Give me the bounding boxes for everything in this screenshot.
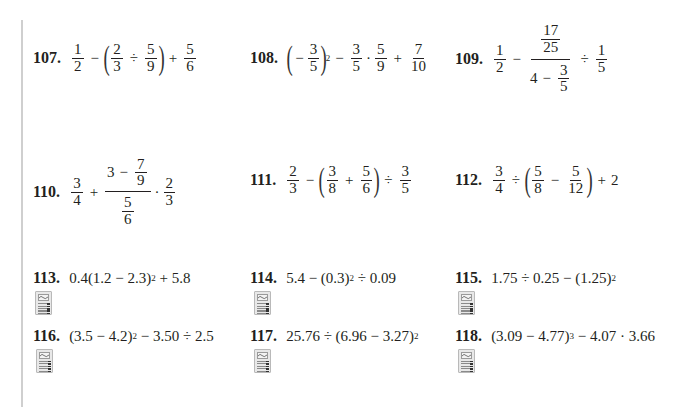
problem-number: 117. (250, 327, 277, 345)
operator: ÷ (580, 51, 588, 68)
fraction: 15 (596, 43, 608, 76)
fraction: 35 (400, 164, 412, 197)
problem-110: 110. 34 + 3 − 79 56 · 23 (33, 147, 177, 237)
fraction: 59 (145, 42, 157, 75)
expression-text: 25.76 ÷ (6.96 − 3.27) (286, 328, 414, 345)
expression-text: 0.4(1.2 − 2.3) (69, 270, 151, 287)
problem-number: 118. (455, 327, 482, 345)
problem-number: 109. (455, 50, 483, 68)
fraction: 56 (361, 164, 373, 197)
expression-text: 5.4 − (0.3) (286, 270, 349, 287)
problem-107: 107. 12 − ( 23 ÷ 59 ) + 56 (33, 38, 198, 78)
fraction: 56 (184, 42, 196, 75)
right-paren: ) (321, 41, 327, 75)
graphing-calculator-icon[interactable] (254, 349, 271, 373)
problem-number: 113. (33, 269, 60, 287)
problem-114: 114. 5.4 − (0.3)2 ÷ 0.09 (250, 268, 396, 288)
fraction: 23 (164, 176, 176, 209)
whole-number: 4 (530, 71, 538, 87)
problem-111: 111. 23 − ( 38 + 56 ) ÷ 35 (250, 160, 413, 200)
operator: · (155, 184, 160, 201)
fraction: 710 (409, 42, 428, 75)
problem-number: 108. (250, 49, 278, 67)
fraction: 56 (122, 195, 134, 228)
expression-text: ÷ 0.09 (354, 270, 396, 287)
fraction: 38 (327, 164, 339, 197)
right-paren: ) (587, 163, 593, 197)
graphing-calculator-icon[interactable] (35, 291, 52, 315)
operator: − (335, 50, 343, 67)
problem-113: 113. 0.4(1.2 − 2.3)2 + 5.8 (33, 268, 191, 288)
operator: − (513, 51, 521, 68)
exponent: 2 (414, 331, 419, 341)
expression-text: + 5.8 (156, 270, 191, 287)
operator: + (169, 50, 177, 67)
problem-115: 115. 1.75 ÷ 0.25 − (1.25)2 (455, 268, 616, 288)
expression-text: 1.75 ÷ 0.25 − (1.25) (491, 270, 611, 287)
whole-number: 3 (107, 165, 115, 181)
margin-rule (21, 20, 23, 407)
problem-118: 118. (3.09 − 4.77)3 − 4.07 · 3.66 (455, 326, 655, 346)
operator: + (394, 50, 402, 67)
left-paren: ( (524, 163, 530, 197)
expression-text: (3.5 − 4.2) (69, 328, 132, 345)
left-paren: ( (287, 41, 293, 75)
fraction: 512 (566, 164, 585, 197)
problem-number: 107. (33, 49, 61, 67)
operator: ÷ (384, 172, 392, 189)
fraction: 12 (494, 43, 506, 76)
fraction: 58 (532, 164, 544, 197)
operator: − (306, 172, 314, 189)
fraction: 23 (111, 42, 123, 75)
graphing-calculator-icon[interactable] (458, 349, 475, 373)
operator: − (120, 165, 128, 181)
fraction: 35 (308, 42, 320, 75)
exponent: 2 (612, 273, 617, 283)
expression-text: − 4.07 · 3.66 (574, 328, 655, 345)
fraction: 23 (287, 164, 299, 197)
problem-109: 109. 12 − 1725 4 − 35 ÷ 15 (455, 15, 609, 103)
problem-number: 115. (455, 269, 482, 287)
whole-number: 2 (611, 172, 619, 189)
fraction: 59 (375, 42, 387, 75)
operator: ÷ (130, 50, 138, 67)
operator: · (366, 50, 371, 67)
operator: − (542, 71, 550, 87)
left-paren: ( (104, 41, 110, 75)
negative-sign: − (295, 50, 303, 67)
graphing-calculator-icon[interactable] (254, 291, 271, 315)
problem-number: 112. (455, 171, 482, 189)
fraction: 35 (558, 63, 570, 96)
expression-text: − 3.50 ÷ 2.5 (137, 328, 214, 345)
problem-number: 110. (33, 183, 60, 201)
expression-text: (3.09 − 4.77) (491, 328, 569, 345)
complex-fraction: 3 − 79 56 (105, 157, 150, 228)
left-paren: ( (319, 163, 325, 197)
operator: − (91, 50, 99, 67)
graphing-calculator-icon[interactable] (458, 291, 475, 315)
operator: + (345, 172, 353, 189)
operator: + (90, 184, 98, 201)
problem-number: 111. (250, 171, 276, 189)
problem-number: 116. (33, 327, 60, 345)
complex-fraction: 1725 4 − 35 (528, 23, 573, 95)
problem-116: 116. (3.5 − 4.2)2 − 3.50 ÷ 2.5 (33, 326, 214, 346)
problem-112: 112. 34 ÷ ( 58 − 512 ) + 2 (455, 160, 618, 200)
fraction: 35 (351, 42, 363, 75)
right-paren: ) (158, 41, 164, 75)
problem-number: 114. (250, 269, 277, 287)
fraction: 34 (71, 176, 83, 209)
right-paren: ) (374, 163, 380, 197)
fraction: 79 (135, 157, 147, 190)
problem-117: 117. 25.76 ÷ (6.96 − 3.27)2 (250, 326, 419, 346)
fraction: 1725 (541, 23, 560, 56)
fraction: 12 (72, 42, 84, 75)
operator: − (551, 172, 559, 189)
operator: + (597, 172, 605, 189)
problem-108: 108. ( − 35 ) 2 − 35 · 59 + 710 (250, 38, 430, 78)
fraction: 34 (493, 164, 505, 197)
graphing-calculator-icon[interactable] (36, 349, 53, 373)
operator: ÷ (512, 172, 520, 189)
